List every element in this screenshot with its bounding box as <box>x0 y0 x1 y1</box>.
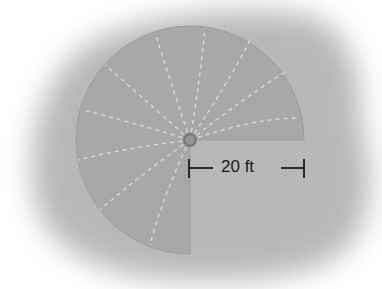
sprinkler-icon <box>183 133 197 147</box>
radius-label: 20 ft <box>221 157 254 177</box>
sprinkler-diagram <box>0 0 382 289</box>
diagram-canvas: 20 ft <box>0 0 382 289</box>
